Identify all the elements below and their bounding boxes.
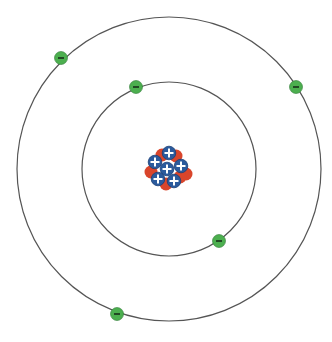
- proton: [167, 174, 181, 188]
- proton: [174, 159, 188, 173]
- electron-outer: [55, 52, 68, 65]
- minus-icon: [133, 86, 139, 88]
- electron-inner: [213, 235, 226, 248]
- nucleus: [145, 146, 193, 190]
- electron-outer: [111, 308, 124, 321]
- minus-icon: [216, 240, 222, 242]
- proton: [162, 146, 176, 160]
- minus-icon: [114, 313, 120, 315]
- electron-outer: [290, 81, 303, 94]
- atom-diagram: [0, 0, 332, 342]
- bohr-model-svg: [0, 0, 332, 342]
- electron-inner: [130, 81, 143, 94]
- minus-icon: [293, 86, 299, 88]
- minus-icon: [58, 57, 64, 59]
- proton: [148, 155, 162, 169]
- proton: [151, 172, 165, 186]
